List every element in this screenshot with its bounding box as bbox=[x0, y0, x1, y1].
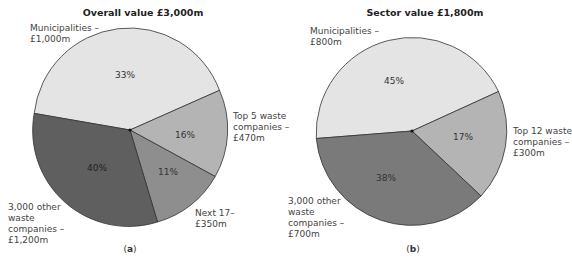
label-municipalities: Municipalities – £800m bbox=[310, 26, 379, 48]
label-top5: Top 5 waste companies – £470m bbox=[233, 111, 289, 144]
pct-municipalities: 45% bbox=[384, 76, 404, 86]
pct-top5: 16% bbox=[175, 130, 195, 140]
pct-top12: 17% bbox=[453, 132, 473, 142]
panel-label: (a) bbox=[123, 244, 136, 254]
pie-chart-overall: Overall value £3,000m 33% 16% 11% 40% Mu… bbox=[0, 0, 286, 266]
label-other: 3,000 other waste companies – £1,200m bbox=[8, 202, 64, 246]
label-municipalities: Municipalities – £1,000m bbox=[30, 23, 99, 45]
pct-next17: 11% bbox=[158, 167, 178, 177]
pct-municipalities: 33% bbox=[115, 70, 135, 80]
label-other: 3,000 other waste companies – £700m bbox=[288, 196, 344, 240]
panel-label: (b) bbox=[406, 244, 419, 254]
label-next17: Next 17– £350m bbox=[195, 208, 235, 230]
pie-chart-sector: Sector value £1,800m 45% 17% 38% Municip… bbox=[282, 0, 568, 266]
pct-other: 38% bbox=[376, 173, 396, 183]
pct-other: 40% bbox=[87, 163, 107, 173]
label-top12: Top 12 waste companies – £300m bbox=[513, 126, 572, 159]
